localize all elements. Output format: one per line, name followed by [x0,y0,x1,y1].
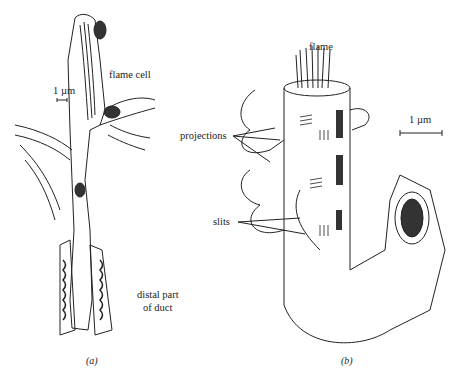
scale-bar-label-b: 1 µm [409,115,431,126]
scale-bar-label-a: 1 µm [53,86,75,97]
diagram-drawing [0,0,463,368]
panel-b-flame-cell-drawing [233,46,445,343]
panel-a-caption: (a) [86,355,98,366]
flame-label: flame [309,42,333,53]
panel-a-flame-cell-drawing [15,14,155,335]
panel-b-caption: (b) [341,355,353,366]
projections-label: projections [180,131,227,142]
distal-duct-label-line1: distal part [137,290,179,301]
slits-label: slits [213,217,230,228]
distal-duct-label-line2: of duct [143,303,172,314]
flame-cell-label: flame cell [109,70,151,81]
